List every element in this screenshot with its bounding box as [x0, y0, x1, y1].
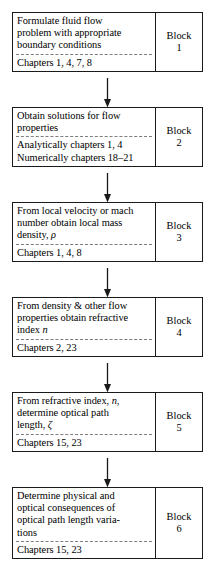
description-line: Formulate fluid flow — [17, 15, 155, 27]
block-box: Obtain solutions for flow properties Ana… — [12, 107, 203, 167]
block-chapters: Analytically chapters 1, 4 Numerically c… — [13, 137, 155, 165]
description-line: Obtain solutions for flow — [17, 110, 155, 122]
block-box: From density & other flow properties obt… — [12, 297, 203, 357]
block-number: 1 — [176, 42, 181, 54]
block-number: 3 — [176, 232, 181, 244]
block-label: Block 5 — [156, 393, 202, 451]
block-label: Block 3 — [156, 203, 202, 261]
block-label-text: Block — [167, 511, 192, 523]
block-box: Determine physical and optical consequen… — [12, 487, 203, 559]
block-chapters: Chapters 1, 4, 8 — [13, 245, 155, 261]
chapters-line: Numerically chapters 18–21 — [17, 152, 155, 164]
flow-block-4: From density & other flow properties obt… — [12, 297, 203, 357]
block-content: Formulate fluid flow problem with approp… — [13, 13, 156, 71]
description-line: density, ρ — [17, 229, 155, 241]
block-box: Formulate fluid flow problem with approp… — [12, 12, 203, 72]
description-line: determine optical path — [17, 407, 155, 419]
block-label: Block 4 — [156, 298, 202, 356]
description-line: From local velocity or mach — [17, 205, 155, 217]
block-content: From density & other flow properties obt… — [13, 298, 156, 356]
description-line: tions — [17, 527, 155, 539]
chapters-line: Analytically chapters 1, 4 — [17, 139, 155, 151]
chapters-line: Chapters 15, 23 — [17, 437, 155, 449]
flow-block-1: Formulate fluid flow problem with approp… — [12, 12, 203, 72]
block-label: Block 1 — [156, 13, 202, 71]
block-chapters: Chapters 15, 23 — [13, 435, 155, 451]
block-content: Obtain solutions for flow properties Ana… — [13, 108, 156, 166]
chapters-line: Chapters 1, 4, 7, 8 — [17, 57, 155, 69]
block-description: Obtain solutions for flow properties — [13, 108, 155, 136]
block-label: Block 6 — [156, 488, 202, 558]
connector-4-5 — [0, 363, 216, 393]
block-label-text: Block — [167, 410, 192, 422]
connector-1-2 — [0, 78, 216, 108]
block-chapters: Chapters 1, 4, 7, 8 — [13, 55, 155, 71]
description-line: length, ζ — [17, 419, 155, 431]
chapters-line: Chapters 15, 23 — [17, 544, 155, 556]
block-chapters: Chapters 15, 23 — [13, 542, 155, 558]
description-line: From refractive index, n, — [17, 395, 155, 407]
block-description: Formulate fluid flow problem with approp… — [13, 13, 155, 54]
flow-block-2: Obtain solutions for flow properties Ana… — [12, 107, 203, 167]
block-number: 6 — [176, 523, 181, 535]
description-line: properties — [17, 122, 155, 134]
description-line: problem with appropriate — [17, 27, 155, 39]
block-number: 5 — [176, 422, 181, 434]
connector-5-6 — [0, 458, 216, 488]
description-line: index n — [17, 324, 155, 336]
block-label-text: Block — [167, 220, 192, 232]
block-label-text: Block — [167, 315, 192, 327]
description-line: number obtain local mass — [17, 217, 155, 229]
description-line: Determine physical and — [17, 490, 155, 502]
block-description: From density & other flow properties obt… — [13, 298, 155, 339]
chapters-line: Chapters 2, 23 — [17, 342, 155, 354]
block-chapters: Chapters 2, 23 — [13, 340, 155, 356]
flowchart-diagram: Formulate fluid flow problem with approp… — [0, 0, 216, 578]
block-description: From refractive index, n, determine opti… — [13, 393, 155, 434]
flow-block-3: From local velocity or mach number obtai… — [12, 202, 203, 262]
block-number: 2 — [176, 137, 181, 149]
block-box: From refractive index, n, determine opti… — [12, 392, 203, 452]
block-box: From local velocity or mach number obtai… — [12, 202, 203, 262]
block-label-text: Block — [167, 30, 192, 42]
description-line: optical path length varia- — [17, 514, 155, 526]
block-number: 4 — [176, 327, 181, 339]
description-line: From density & other flow — [17, 300, 155, 312]
description-line: optical consequences of — [17, 502, 155, 514]
block-content: From local velocity or mach number obtai… — [13, 203, 156, 261]
flow-block-5: From refractive index, n, determine opti… — [12, 392, 203, 452]
block-label: Block 2 — [156, 108, 202, 166]
block-content: From refractive index, n, determine opti… — [13, 393, 156, 451]
block-content: Determine physical and optical consequen… — [13, 488, 156, 558]
chapters-line: Chapters 1, 4, 8 — [17, 247, 155, 259]
block-description: Determine physical and optical consequen… — [13, 488, 155, 541]
description-line: properties obtain refractive — [17, 312, 155, 324]
flow-block-6: Determine physical and optical consequen… — [12, 487, 203, 559]
connector-3-4 — [0, 268, 216, 298]
block-label-text: Block — [167, 125, 192, 137]
block-description: From local velocity or mach number obtai… — [13, 203, 155, 244]
description-line: boundary conditions — [17, 39, 155, 51]
connector-2-3 — [0, 173, 216, 203]
